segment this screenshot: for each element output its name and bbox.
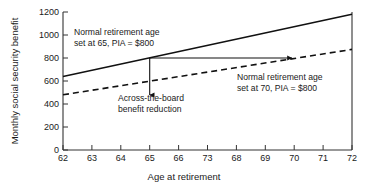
- annot-nra-70-line1: Normal retirement age: [237, 72, 323, 82]
- x-tick-label: 68: [231, 153, 241, 163]
- x-tick-label: 73: [202, 153, 212, 163]
- x-tick-label: 70: [289, 153, 299, 163]
- y-tick-label: 600: [44, 76, 59, 86]
- annot-reduction: Across-the-board benefit reduction: [118, 93, 184, 114]
- annot-reduction-line2: benefit reduction: [118, 104, 182, 114]
- x-tick-marks: [63, 145, 352, 150]
- x-tick-labels: 62 63 64 65 66 73 68 69 70 71 72: [58, 153, 357, 163]
- annot-nra-65-line1: Normal retirement age: [74, 27, 160, 37]
- y-tick-labels: 0 200 400 600 800 1000 1200: [39, 7, 59, 155]
- x-tick-label: 62: [58, 153, 68, 163]
- y-axis-title: Monthly social security benefit: [9, 17, 20, 144]
- x-axis-title: Age at retirement: [148, 171, 221, 182]
- annot-nra-65: Normal retirement age set at 65, PIA = $…: [74, 27, 160, 48]
- x-tick-label: 65: [145, 153, 155, 163]
- y-tick-label: 400: [44, 99, 59, 109]
- y-tick-label: 1200: [39, 7, 59, 17]
- line-chart: 0 200 400 600 800 1000 1200 62 63 64 65 …: [0, 0, 371, 186]
- x-tick-label: 63: [87, 153, 97, 163]
- y-tick-label: 1000: [39, 30, 59, 40]
- annot-reduction-line1: Across-the-board: [118, 93, 184, 103]
- annot-nra-70-line2: set at 70, PIA = $800: [237, 83, 317, 93]
- chart-figure: 0 200 400 600 800 1000 1200 62 63 64 65 …: [0, 0, 371, 186]
- x-tick-label: 66: [174, 153, 184, 163]
- annot-nra-65-line2: set at 65, PIA = $800: [74, 38, 154, 48]
- y-tick-label: 800: [44, 53, 59, 63]
- x-tick-label: 69: [260, 153, 270, 163]
- x-tick-label: 64: [116, 153, 126, 163]
- y-tick-label: 200: [44, 122, 59, 132]
- y-tick-marks: [63, 12, 68, 150]
- x-tick-label: 71: [318, 153, 328, 163]
- annot-nra-70: Normal retirement age set at 70, PIA = $…: [237, 72, 323, 93]
- x-tick-label: 72: [347, 153, 357, 163]
